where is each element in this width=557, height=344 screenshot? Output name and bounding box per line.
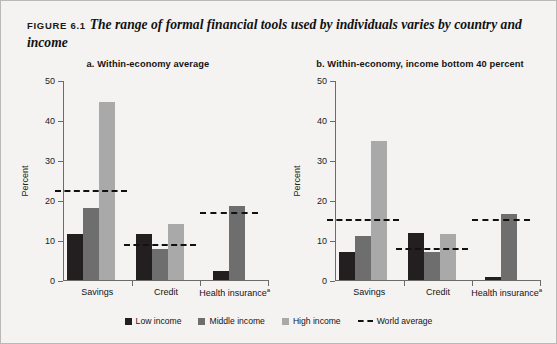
panel-a-y-tick [58, 281, 63, 282]
bar-b-health-insurance-mid [501, 214, 517, 280]
panel-a-x-label-savings: Savings [81, 287, 113, 297]
swatch-icon-high [282, 318, 289, 325]
panel-a-x-label-health-insurance: Health insurancea [199, 287, 270, 298]
bar-a-health-insurance-low [213, 271, 229, 280]
world-average-line-a-savings [55, 190, 127, 192]
panel-b-y-axis [335, 81, 336, 281]
panel-b-y-tick-label: 0 [322, 276, 327, 286]
bar-b-savings-high [371, 141, 387, 280]
bar-b-savings-mid [355, 236, 371, 280]
panel-b-y-tick-label: 40 [317, 116, 327, 126]
panel-a-x-label-credit: Credit [154, 287, 178, 297]
swatch-icon-low [125, 318, 132, 325]
bar-a-credit-low [136, 234, 152, 280]
panel-b-x-label-credit: Credit [426, 287, 450, 297]
panel-a-y-axis [63, 81, 64, 281]
world-average-line-b-credit [396, 248, 468, 250]
chart-panel-a: a. Within-economy average Percent 010203… [17, 59, 279, 311]
panel-b-x-axis [335, 280, 541, 281]
bar-b-credit-low [408, 233, 424, 280]
panel-b-y-tick [330, 241, 335, 242]
panel-b-y-tick [330, 121, 335, 122]
panel-b-y-axis-label: Percent [292, 165, 302, 196]
panel-a-y-tick [58, 81, 63, 82]
panel-a-y-tick [58, 121, 63, 122]
panel-b-y-tick-label: 50 [317, 76, 327, 86]
panel-a-y-tick-label: 30 [45, 156, 55, 166]
panel-b-x-tick [404, 281, 405, 286]
dashed-line-icon [358, 320, 373, 322]
panel-b-title: b. Within-economy, income bottom 40 perc… [289, 59, 551, 69]
panel-b-y-tick [330, 161, 335, 162]
swatch-icon-mid [198, 318, 205, 325]
panel-a-y-axis-label: Percent [20, 165, 30, 196]
panel-a-y-tick [58, 241, 63, 242]
panel-a-x-tick-end [268, 281, 269, 286]
panel-a-x-tick [200, 281, 201, 286]
panel-b-y-tick-label: 30 [317, 156, 327, 166]
chart-legend: Low incomeMiddle incomeHigh incomeWorld … [1, 316, 556, 326]
panel-a-y-tick [58, 161, 63, 162]
panel-a-y-tick-label: 40 [45, 116, 55, 126]
panel-b-y-tick-label: 10 [317, 236, 327, 246]
legend-label: Low income [136, 316, 182, 326]
panel-a-plot-area: Percent 01020304050SavingsCreditHealth i… [63, 81, 269, 281]
legend-item-low: Low income [125, 316, 182, 326]
panel-b-plot-area: Percent 01020304050SavingsCreditHealth i… [335, 81, 541, 281]
panel-a-y-tick-label: 10 [45, 236, 55, 246]
legend-item-avg: World average [358, 316, 433, 326]
footnote-marker: a [539, 287, 542, 293]
panel-a-y-tick-label: 50 [45, 76, 55, 86]
bar-a-savings-mid [83, 208, 99, 280]
legend-label: Middle income [209, 316, 264, 326]
chart-panel-b: b. Within-economy, income bottom 40 perc… [289, 59, 551, 311]
world-average-line-b-savings [327, 219, 399, 221]
panel-b-x-label-health-insurance: Health insurancea [471, 287, 542, 298]
bar-b-credit-high [440, 234, 456, 280]
panel-a-x-axis [63, 280, 269, 281]
panel-b-y-tick [330, 81, 335, 82]
panel-b-y-tick [330, 281, 335, 282]
footnote-marker: a [267, 287, 270, 293]
figure-caption: FIGURE 6.1 The range of formal financial… [27, 15, 537, 52]
page-title: The range of formal financial tools used… [27, 17, 522, 50]
bar-a-credit-high [168, 224, 184, 280]
panel-b-x-tick [472, 281, 473, 286]
panel-a-title: a. Within-economy average [17, 59, 279, 69]
figure-container: FIGURE 6.1 The range of formal financial… [0, 0, 557, 344]
legend-label: High income [293, 316, 341, 326]
world-average-line-a-credit [124, 244, 196, 246]
panel-a-y-tick-label: 20 [45, 196, 55, 206]
panel-a-y-tick [58, 201, 63, 202]
bar-a-savings-low [67, 234, 83, 280]
panel-b-x-label-savings: Savings [353, 287, 385, 297]
legend-label: World average [377, 316, 433, 326]
panel-a-y-tick-label: 0 [50, 276, 55, 286]
bar-a-health-insurance-mid [229, 206, 245, 280]
legend-item-mid: Middle income [198, 316, 264, 326]
bar-a-credit-mid [152, 249, 168, 280]
panel-b-y-tick [330, 201, 335, 202]
legend-item-high: High income [282, 316, 341, 326]
bar-b-health-insurance-low [485, 277, 501, 280]
bar-b-credit-mid [424, 252, 440, 280]
panel-b-y-tick-label: 20 [317, 196, 327, 206]
figure-number: FIGURE 6.1 [27, 20, 86, 31]
panel-b-x-tick-end [540, 281, 541, 286]
world-average-line-a-health-insurance [200, 212, 258, 214]
panel-a-x-tick [132, 281, 133, 286]
world-average-line-b-health-insurance [472, 219, 530, 221]
bar-b-savings-low [339, 252, 355, 280]
